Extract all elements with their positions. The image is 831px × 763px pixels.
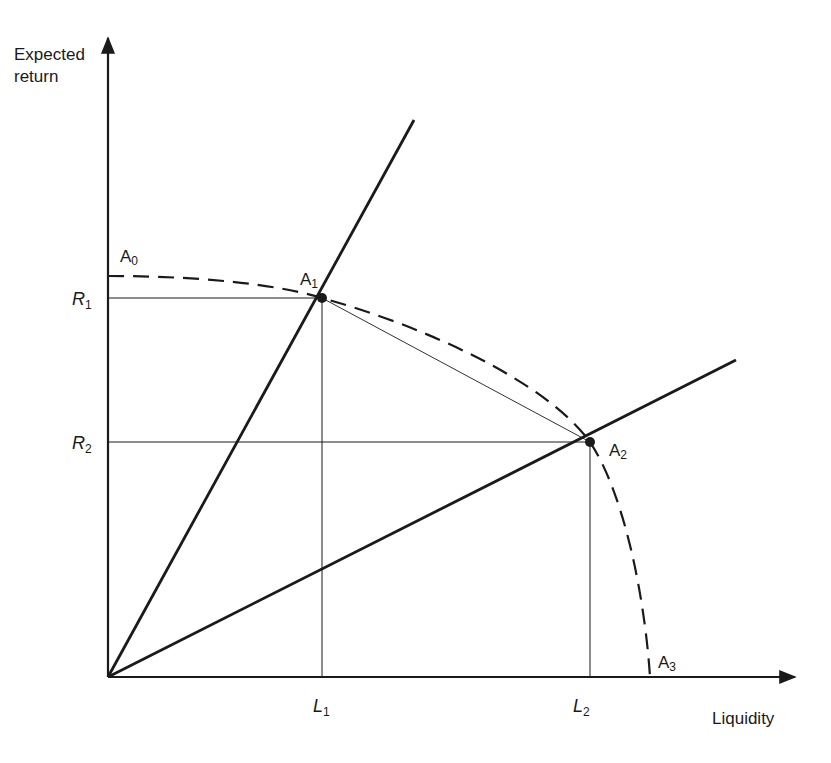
liquidity-return-diagram: Expected return Liquidity R1 R2 L1 L2 A0… [0,0,831,763]
y-axis-label-line1: Expected [14,45,85,64]
tick-r2: R2 [72,433,92,456]
tick-l1: L1 [313,696,330,719]
chord-a1-a2 [322,298,590,442]
y-axis-label-line2: return [14,67,58,86]
tick-r1: R1 [72,289,92,312]
frontier-curve [108,276,650,677]
x-axis-label: Liquidity [712,709,775,728]
label-a3: A3 [658,653,676,674]
label-a1: A1 [300,270,318,291]
point-a2 [585,437,595,447]
point-a1 [317,293,327,303]
ray-a2 [108,360,736,677]
ray-a1 [108,120,414,677]
label-a2: A2 [609,441,627,462]
label-a0: A0 [120,247,138,268]
tick-l2: L2 [573,696,590,719]
